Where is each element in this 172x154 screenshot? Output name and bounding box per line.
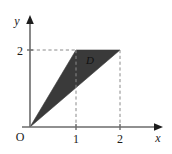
x-axis-arrowhead-icon [154,123,163,131]
coordinate-diagram: y x O 2 1 2 D [0,0,172,154]
region-label-d: D [85,54,94,66]
figure-container: y x O 2 1 2 D [0,0,172,154]
y-axis-label: y [13,14,20,28]
shaded-region-d [30,50,120,127]
x-tick-label-2: 2 [117,132,123,146]
x-axis-label: x [154,131,161,145]
x-tick-label-1: 1 [73,132,79,146]
origin-label: O [16,130,25,144]
y-tick-label-2: 2 [17,44,23,58]
y-axis-arrowhead-icon [26,15,34,24]
